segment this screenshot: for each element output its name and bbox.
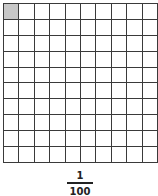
grid-cell bbox=[96, 147, 111, 163]
grid-cell bbox=[35, 36, 50, 52]
grid-cell bbox=[143, 4, 158, 20]
grid-cell bbox=[112, 4, 127, 20]
grid-cell bbox=[112, 68, 127, 84]
grid-cell bbox=[66, 99, 81, 115]
grid-cell-shaded bbox=[4, 4, 19, 20]
grid-cell bbox=[127, 115, 142, 131]
grid-cell bbox=[143, 147, 158, 163]
hundred-grid bbox=[3, 3, 158, 163]
grid-cell bbox=[81, 147, 96, 163]
grid-cell bbox=[81, 115, 96, 131]
grid-cell bbox=[66, 131, 81, 147]
grid-cell bbox=[127, 131, 142, 147]
grid-cell bbox=[66, 83, 81, 99]
grid-cell bbox=[35, 52, 50, 68]
grid-cell bbox=[19, 68, 34, 84]
grid-cell bbox=[81, 52, 96, 68]
grid-cell bbox=[50, 68, 65, 84]
grid-cell bbox=[4, 36, 19, 52]
grid-cell bbox=[81, 99, 96, 115]
grid-cell bbox=[112, 36, 127, 52]
grid-cell bbox=[4, 68, 19, 84]
grid-cell bbox=[50, 115, 65, 131]
grid-cell bbox=[50, 52, 65, 68]
grid-cell bbox=[50, 20, 65, 36]
grid-cell bbox=[81, 68, 96, 84]
grid-cell bbox=[96, 36, 111, 52]
grid-cell bbox=[81, 4, 96, 20]
grid-cell bbox=[35, 131, 50, 147]
grid-cell bbox=[19, 36, 34, 52]
grid-cell bbox=[112, 147, 127, 163]
grid-cell bbox=[96, 68, 111, 84]
grid-cell bbox=[112, 115, 127, 131]
grid-cell bbox=[112, 131, 127, 147]
grid-cell bbox=[66, 36, 81, 52]
grid-cell bbox=[50, 131, 65, 147]
grid-cell bbox=[50, 99, 65, 115]
grid-cell bbox=[19, 115, 34, 131]
grid-cell bbox=[96, 52, 111, 68]
grid-cell bbox=[127, 20, 142, 36]
fraction-numerator: 1 bbox=[60, 170, 100, 181]
grid-cell bbox=[35, 147, 50, 163]
grid-cell bbox=[143, 36, 158, 52]
grid-cell bbox=[143, 99, 158, 115]
grid-cell bbox=[35, 68, 50, 84]
fraction-bar bbox=[67, 182, 93, 184]
grid-cell bbox=[127, 83, 142, 99]
grid-cell bbox=[127, 68, 142, 84]
grid-cell bbox=[4, 52, 19, 68]
grid-cell bbox=[127, 52, 142, 68]
grid-cell bbox=[143, 68, 158, 84]
grid-cell bbox=[35, 83, 50, 99]
grid-cell bbox=[4, 131, 19, 147]
grid-cell bbox=[96, 99, 111, 115]
grid-cell bbox=[4, 20, 19, 36]
grid-cell bbox=[19, 20, 34, 36]
grid-cell bbox=[96, 4, 111, 20]
grid-cell bbox=[96, 83, 111, 99]
grid-cell bbox=[66, 20, 81, 36]
grid-cell bbox=[143, 52, 158, 68]
grid-cell bbox=[19, 99, 34, 115]
grid-cell bbox=[143, 115, 158, 131]
fraction-denominator: 100 bbox=[60, 186, 100, 196]
grid-cell bbox=[19, 52, 34, 68]
grid-cell bbox=[19, 131, 34, 147]
grid-cell bbox=[143, 20, 158, 36]
grid-cell bbox=[96, 131, 111, 147]
grid-cell bbox=[96, 115, 111, 131]
grid-cell bbox=[66, 68, 81, 84]
grid-cell bbox=[127, 99, 142, 115]
grid-cell bbox=[66, 4, 81, 20]
grid-cell bbox=[35, 99, 50, 115]
grid-cell bbox=[66, 147, 81, 163]
grid-cell bbox=[19, 83, 34, 99]
grid-cell bbox=[50, 83, 65, 99]
grid-cell bbox=[50, 4, 65, 20]
grid-cell bbox=[143, 83, 158, 99]
grid-cell bbox=[66, 115, 81, 131]
grid-cell bbox=[112, 83, 127, 99]
grid-cell bbox=[143, 131, 158, 147]
grid-cell bbox=[96, 20, 111, 36]
grid-cell bbox=[4, 115, 19, 131]
grid-cell bbox=[19, 4, 34, 20]
grid-cell bbox=[112, 20, 127, 36]
grid-cell bbox=[35, 4, 50, 20]
grid-cell bbox=[127, 4, 142, 20]
grid-cell bbox=[112, 52, 127, 68]
grid-cell bbox=[35, 115, 50, 131]
grid-cell bbox=[127, 147, 142, 163]
grid-cell bbox=[19, 147, 34, 163]
grid-cell bbox=[81, 20, 96, 36]
grid-cell bbox=[4, 147, 19, 163]
grid-cell bbox=[50, 36, 65, 52]
grid-cell bbox=[127, 36, 142, 52]
grid-cell bbox=[4, 83, 19, 99]
grid-cell bbox=[50, 147, 65, 163]
fraction-label: 1 100 bbox=[60, 170, 100, 195]
grid-cell bbox=[4, 99, 19, 115]
grid-cell bbox=[112, 99, 127, 115]
